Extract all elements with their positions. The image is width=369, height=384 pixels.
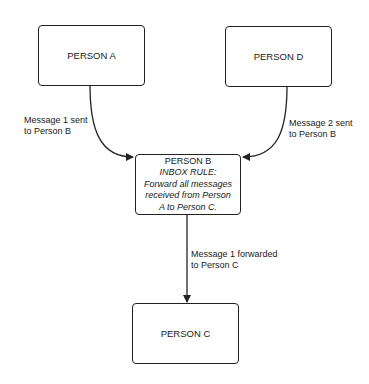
edge-label-d-to-b: Message 2 sent to Person B bbox=[289, 118, 353, 140]
arrow-d-to-b bbox=[243, 86, 287, 157]
rule-line: A to Person C. bbox=[159, 202, 217, 214]
node-label: PERSON A bbox=[67, 50, 116, 61]
node-label: PERSON C bbox=[161, 328, 211, 339]
node-label: PERSON D bbox=[254, 51, 304, 62]
node-person-a: PERSON A bbox=[38, 25, 145, 86]
rule-line: Forward all messages bbox=[144, 179, 232, 191]
arrow-a-to-b bbox=[90, 85, 133, 157]
edge-label-b-to-c: Message 1 forwarded to Person C bbox=[191, 249, 278, 271]
node-person-b: PERSON B INBOX RULE: Forward all message… bbox=[135, 154, 241, 215]
rule-heading: INBOX RULE: bbox=[159, 167, 216, 179]
node-person-c: PERSON C bbox=[132, 303, 239, 364]
rule-line: received from Person bbox=[145, 190, 231, 202]
node-title: PERSON B bbox=[165, 156, 212, 168]
edge-label-a-to-b: Message 1 sent to Person B bbox=[24, 115, 88, 137]
node-person-d: PERSON D bbox=[225, 26, 332, 87]
